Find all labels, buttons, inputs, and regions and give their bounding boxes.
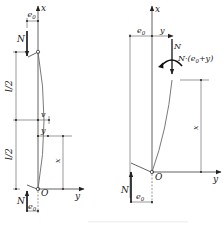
right-e0-label: e0: [137, 26, 146, 36]
left-x-axis-label: x: [41, 3, 46, 13]
right-bottom-arm: [131, 163, 151, 172]
right-bottom-e0-label: e0: [136, 192, 145, 202]
right-moment-arrowhead-icon: [158, 63, 164, 69]
column-buckling-diagram: x e0 N l/2 l/2 v y x: [0, 0, 224, 225]
right-x-axis-label: x: [155, 4, 160, 14]
left-lower-half-length-label: l/2: [4, 148, 14, 160]
right-deflected-column: [152, 80, 172, 172]
left-max-deflection-label: v: [41, 110, 46, 119]
faint-caption: [88, 221, 188, 223]
right-moment-label: N·(e0+y): [177, 54, 213, 64]
left-deflection-label: y: [40, 126, 46, 135]
left-top-arm: [28, 53, 36, 57]
right-bottom-force-label: N: [120, 185, 130, 195]
left-bottom-force-label: N: [16, 196, 26, 206]
right-height-label: x: [191, 125, 200, 130]
left-top-force-label: N: [16, 34, 26, 44]
left-deflected-column: [38, 52, 44, 189]
left-diagram: x e0 N l/2 l/2 v y x: [4, 3, 84, 213]
left-origin-label: O: [41, 188, 49, 198]
left-y-axis-label: y: [74, 191, 81, 201]
right-y-axis-label: y: [212, 174, 219, 184]
left-bottom-e0-label: e0: [28, 202, 37, 212]
left-bottom-arm: [27, 185, 37, 189]
right-diagram: x e0 y N N·(e0+y) x O y N: [120, 4, 221, 204]
right-force-label: N: [173, 42, 182, 51]
right-origin-label: O: [155, 172, 163, 182]
left-top-e0-label: e0: [28, 10, 37, 20]
left-upper-half-length-label: l/2: [4, 80, 14, 92]
right-deflection-label: y: [159, 26, 165, 35]
left-height-label: x: [53, 158, 62, 163]
